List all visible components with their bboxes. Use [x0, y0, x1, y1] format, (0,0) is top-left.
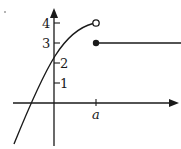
y-tick-label-2: 2	[60, 56, 68, 71]
y-tick-label-4: 4	[42, 16, 50, 31]
y-axis-arrow-icon	[50, 8, 58, 18]
y-axis	[50, 8, 58, 146]
y-tick-label-1: 1	[60, 76, 68, 91]
y-tick-label-3: 3	[42, 36, 50, 51]
open-circle-endpoint	[93, 20, 99, 26]
stray-dot	[4, 11, 6, 13]
x-axis-arrow-icon	[169, 99, 179, 107]
function-graph: 4 3 2 1 a	[0, 0, 181, 149]
x-tick-label-a: a	[92, 107, 100, 122]
filled-dot-endpoint	[93, 40, 99, 46]
